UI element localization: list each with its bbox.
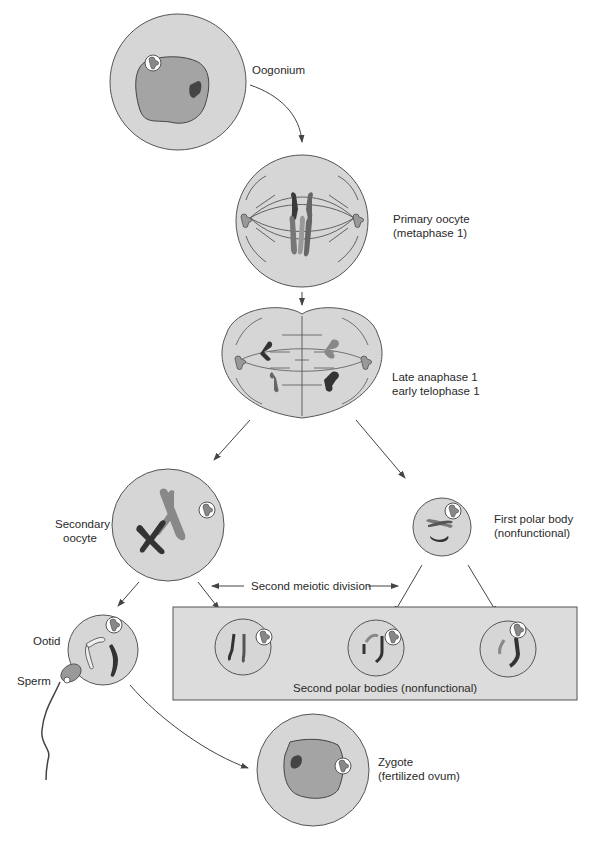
label-primary-oocyte: Primary oocyte (metaphase 1) (393, 212, 470, 240)
secondary-oocyte-cell (112, 469, 224, 581)
label-anaphase: Late anaphase 1 early telophase 1 (392, 370, 480, 398)
label-ootid: Ootid (33, 634, 61, 648)
oogonium-cell (110, 14, 246, 150)
label-secondary-oocyte: Secondary oocyte (55, 517, 110, 545)
label-oogonium: Oogonium (252, 63, 305, 77)
first-polar-body-cell (413, 498, 471, 556)
anaphase-cell (222, 308, 382, 418)
centrosome-icon (145, 55, 161, 71)
label-first-polar-body: First polar body (nonfunctional) (494, 512, 573, 540)
zygote-cell (257, 714, 369, 826)
label-sperm: Sperm (17, 674, 51, 688)
label-second-meiotic-division: Second meiotic division (251, 579, 371, 593)
label-zygote: Zygote (fertilized ovum) (378, 755, 460, 783)
label-second-polar-bodies: Second polar bodies (nonfunctional) (293, 681, 477, 695)
oogenesis-diagram (0, 0, 605, 842)
primary-oocyte-cell (236, 155, 368, 287)
